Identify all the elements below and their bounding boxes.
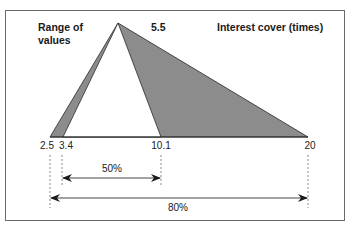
peak-value-label: 5.5	[151, 22, 166, 33]
range-80pct-label: 80%	[168, 203, 188, 213]
range-label-line1: Range of	[38, 22, 83, 33]
range-50pct-label: 50%	[102, 164, 122, 174]
tick-label-3.4: 3.4	[59, 141, 73, 151]
tick-label-20: 20	[304, 141, 315, 151]
chart-title: Interest cover (times)	[217, 22, 323, 33]
tick-label-2.5: 2.5	[40, 141, 54, 151]
range-label-line2: values	[38, 35, 71, 46]
tick-label-10.1: 10.1	[151, 141, 170, 151]
